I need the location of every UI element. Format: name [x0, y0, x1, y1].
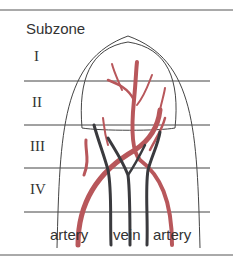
artery-vessels [78, 62, 172, 245]
inner-outline [81, 42, 176, 130]
subzone-label-1: I [34, 48, 39, 65]
subzone-label-4: IV [30, 181, 46, 198]
subzone-title: Subzone [26, 20, 85, 37]
subzone-label-2: II [32, 94, 42, 111]
subzone-label-3: III [30, 138, 45, 155]
subzone-diagram: Subzone I II III IV artery vein artery [0, 0, 233, 276]
vein-label: vein [113, 226, 141, 243]
artery-label-left: artery [50, 226, 88, 243]
zone-dividers [24, 81, 210, 212]
artery-label-right: artery [153, 226, 191, 243]
